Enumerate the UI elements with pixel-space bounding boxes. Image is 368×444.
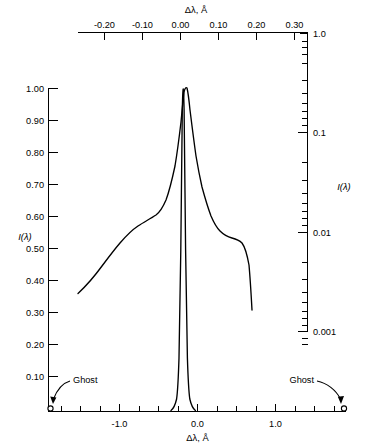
left-tick-label: 0.80 xyxy=(26,148,44,158)
ghost-right-arrowhead xyxy=(338,396,344,404)
top-tick-label: 0.00 xyxy=(172,20,190,30)
bottom-axis: -1.0 0.0 1.0 Δλ, Å xyxy=(48,404,346,443)
ghost-left-annotation: Ghost xyxy=(48,375,98,411)
narrow-spike-path xyxy=(171,89,195,411)
left-tick-label: 0.90 xyxy=(26,116,44,126)
ghost-left-arrow xyxy=(54,381,71,399)
bottom-tick-label: -1.0 xyxy=(112,419,128,429)
ghost-right-arrow xyxy=(317,381,341,399)
top-tick-label: 0.20 xyxy=(248,20,266,30)
right-tick-label: 0.001 xyxy=(313,327,336,337)
chart-svg: -0.20 -0.10 0.00 0.10 0.20 0.30 Δλ, Å 1.… xyxy=(0,0,368,444)
left-tick-label: 0.10 xyxy=(26,372,44,382)
top-tick-label: -0.10 xyxy=(132,20,153,30)
right-tick-label: 0.01 xyxy=(313,228,331,238)
ghost-right-marker xyxy=(341,406,346,411)
left-axis-title: I(λ) xyxy=(18,231,31,242)
spectral-profile-figure: -0.20 -0.10 0.00 0.10 0.20 0.30 Δλ, Å 1.… xyxy=(0,0,368,444)
top-tick-label: 0.30 xyxy=(286,20,304,30)
top-tick-label: 0.10 xyxy=(210,20,228,30)
ghost-right-label: Ghost xyxy=(289,375,314,385)
left-axis: 1.00 0.90 0.80 0.70 0.60 0.50 0.40 0.30 … xyxy=(18,84,58,411)
bottom-tick-label: 0.0 xyxy=(191,419,204,429)
ghost-left-arrowhead xyxy=(50,397,56,405)
narrow-spike-curve xyxy=(171,89,195,411)
left-tick-label: 0.50 xyxy=(26,244,44,254)
right-axis: 1.0 0.1 0.01 0.001 I(λ) xyxy=(298,29,351,345)
left-tick-label: 0.60 xyxy=(26,212,44,222)
right-tick-label: 0.1 xyxy=(313,128,326,138)
bottom-axis-title: Δλ, Å xyxy=(186,432,209,443)
top-axis-title: Δλ, Å xyxy=(185,4,208,15)
top-tick-label: -0.20 xyxy=(94,20,115,30)
left-tick-label: 0.70 xyxy=(26,180,44,190)
left-tick-label: 0.30 xyxy=(26,308,44,318)
right-axis-title: I(λ) xyxy=(337,181,350,192)
ghost-left-marker xyxy=(48,406,53,411)
bottom-tick-label: 1.0 xyxy=(269,419,282,429)
broad-profile-curve xyxy=(78,88,252,310)
left-tick-label: 0.40 xyxy=(26,276,44,286)
right-tick-label: 1.0 xyxy=(313,29,326,39)
left-tick-label: 1.00 xyxy=(26,84,44,94)
left-tick-label: 0.20 xyxy=(26,340,44,350)
broad-profile-path xyxy=(78,88,252,310)
top-axis: -0.20 -0.10 0.00 0.10 0.20 0.30 Δλ, Å xyxy=(78,4,308,40)
ghost-right-annotation: Ghost xyxy=(289,375,346,411)
ghost-left-label: Ghost xyxy=(73,375,98,385)
